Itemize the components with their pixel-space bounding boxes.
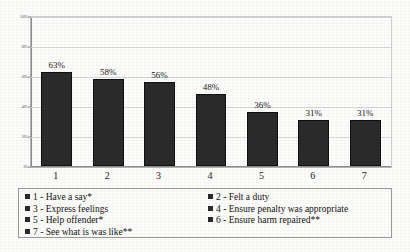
- legend-swatch-icon: [208, 194, 213, 199]
- x-tick-label: 1: [53, 170, 58, 181]
- x-axis-labels: 1234567: [30, 170, 392, 186]
- bar-6: 31%: [298, 120, 329, 167]
- legend-label: 4 - Ensure penalty was appropriate: [216, 204, 348, 216]
- bar-value-label: 48%: [203, 82, 220, 92]
- y-tick-label: 100%: [20, 15, 28, 19]
- y-tick-label: 40%: [22, 105, 28, 109]
- bar-2: 58%: [93, 79, 124, 166]
- bar-value-label: 36%: [254, 100, 271, 110]
- legend-label: 3 - Express feelings: [33, 204, 108, 216]
- legend-swatch-icon: [25, 217, 30, 222]
- x-tick-label: 6: [310, 170, 315, 181]
- y-tick-label: 80%: [22, 45, 28, 49]
- legend-column-right: 2 - Felt a duty4 - Ensure penalty was ap…: [204, 192, 387, 235]
- x-tick-label: 5: [259, 170, 264, 181]
- bar-rect: [196, 94, 227, 166]
- legend-swatch-icon: [208, 206, 213, 211]
- bar-value-label: 63%: [48, 60, 65, 70]
- bar-4: 48%: [196, 94, 227, 166]
- x-tick-label: 7: [362, 170, 367, 181]
- bar-5: 36%: [247, 112, 278, 166]
- bars: 63%58%56%48%36%31%31%: [31, 17, 391, 167]
- bar-value-label: 31%: [306, 108, 323, 118]
- legend-swatch-icon: [25, 206, 30, 211]
- bar-rect: [144, 82, 175, 166]
- legend: 1 - Have a say*3 - Express feelings5 - H…: [18, 188, 392, 238]
- bar-rect: [298, 120, 329, 167]
- bar-rect: [41, 72, 72, 167]
- bar-rect: [247, 112, 278, 166]
- legend-label: 7 - See what is was like**: [33, 227, 132, 239]
- legend-left-item: 1 - Have a say*: [25, 192, 204, 204]
- x-tick-label: 3: [156, 170, 161, 181]
- legend-label: 2 - Felt a duty: [216, 192, 269, 204]
- legend-label: 5 - Help offender*: [33, 215, 103, 227]
- legend-swatch-icon: [208, 217, 213, 222]
- bar-rect: [350, 120, 381, 167]
- y-tick-label: 60%: [22, 75, 28, 79]
- legend-column-left: 1 - Have a say*3 - Express feelings5 - H…: [25, 192, 204, 235]
- plot-area: 0%20%40%60%80%100% 63%58%56%48%36%31%31%: [30, 16, 392, 168]
- y-tick-label: 0%: [23, 165, 28, 169]
- bar-chart: 0%20%40%60%80%100% 63%58%56%48%36%31%31%…: [0, 0, 410, 252]
- bar-1: 63%: [41, 72, 72, 167]
- legend-swatch-icon: [25, 229, 30, 234]
- legend-right-item: 4 - Ensure penalty was appropriate: [208, 204, 387, 216]
- bar-value-label: 31%: [357, 108, 374, 118]
- x-tick-label: 2: [105, 170, 110, 181]
- legend-right-item: 2 - Felt a duty: [208, 192, 387, 204]
- bar-rect: [93, 79, 124, 166]
- legend-left-item: 7 - See what is was like**: [25, 227, 204, 239]
- legend-label: 6 - Ensure harm repaired**: [216, 215, 320, 227]
- bar-7: 31%: [350, 120, 381, 167]
- legend-swatch-icon: [25, 194, 30, 199]
- x-tick-label: 4: [208, 170, 213, 181]
- bar-3: 56%: [144, 82, 175, 166]
- legend-right-item: 6 - Ensure harm repaired**: [208, 215, 387, 227]
- legend-left-item: 5 - Help offender*: [25, 215, 204, 227]
- legend-left-item: 3 - Express feelings: [25, 204, 204, 216]
- bar-value-label: 56%: [151, 70, 168, 80]
- legend-label: 1 - Have a say*: [33, 192, 92, 204]
- bar-value-label: 58%: [100, 67, 117, 77]
- y-tick-label: 20%: [22, 135, 28, 139]
